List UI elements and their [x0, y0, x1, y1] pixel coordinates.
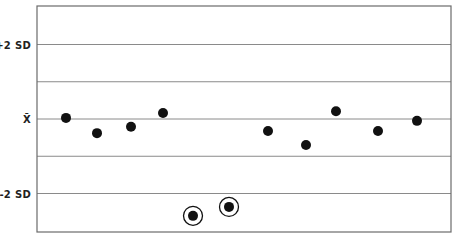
data-point — [301, 140, 311, 150]
data-point — [92, 128, 102, 138]
gridlines — [37, 45, 451, 194]
data-points — [61, 106, 422, 225]
data-point — [331, 106, 341, 116]
control-chart: +2 SDX̄-2 SD — [0, 0, 459, 237]
data-point — [158, 108, 168, 118]
data-point — [126, 122, 136, 132]
y-tick-label: -2 SD — [0, 189, 31, 200]
y-axis-labels: +2 SDX̄-2 SD — [0, 40, 31, 200]
y-tick-label: X̄ — [23, 113, 31, 125]
data-point-outlier — [224, 202, 234, 212]
data-point — [61, 113, 71, 123]
data-point-outlier — [188, 211, 198, 221]
data-point — [263, 126, 273, 136]
data-point — [412, 116, 422, 126]
y-tick-label: +2 SD — [0, 40, 31, 51]
data-point — [373, 126, 383, 136]
